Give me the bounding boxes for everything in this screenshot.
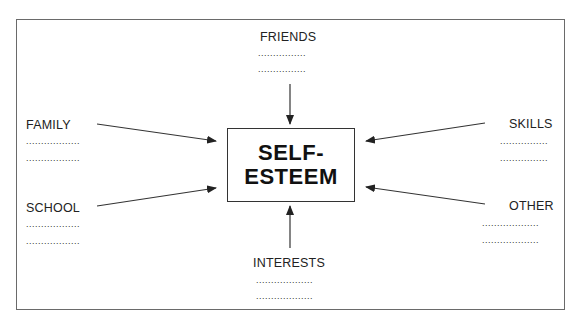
node-friends-blank-1: ................	[258, 48, 306, 58]
node-interests-label: INTERESTS	[253, 256, 325, 270]
node-skills-label: SKILLS	[509, 117, 553, 131]
node-school-label: SCHOOL	[26, 201, 80, 215]
arrow-family	[97, 124, 216, 141]
node-other-blank-2: ...................	[482, 235, 539, 245]
node-other-blank-1: ...................	[482, 218, 539, 228]
center-line1: SELF-	[258, 141, 324, 165]
node-family-blank-1: ..................	[26, 136, 80, 146]
center-line2: ESTEEM	[244, 165, 337, 189]
node-family-label: FAMILY	[26, 118, 71, 132]
node-interests-blank-1: ...................	[256, 275, 313, 285]
node-interests-blank-2: ...................	[256, 291, 313, 301]
node-family-blank-2: ..................	[26, 153, 80, 163]
arrow-school	[97, 188, 216, 206]
self-esteem-box: SELF- ESTEEM	[227, 128, 355, 202]
arrow-skills	[366, 123, 485, 141]
node-skills-blank-1: ................	[500, 136, 548, 146]
node-friends-blank-2: ................	[258, 64, 306, 74]
node-school-blank-2: ..................	[26, 236, 80, 246]
node-other-label: OTHER	[509, 199, 554, 213]
node-skills-blank-2: ................	[500, 153, 548, 163]
arrow-other	[366, 187, 485, 204]
node-friends-label: FRIENDS	[260, 30, 316, 44]
node-school-blank-1: ..................	[26, 219, 80, 229]
